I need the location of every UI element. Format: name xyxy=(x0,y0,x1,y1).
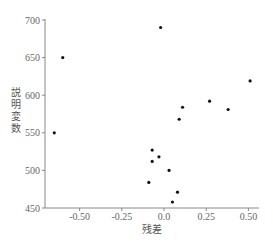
y-tick-label: 650 xyxy=(25,52,40,63)
y-tick-label: 600 xyxy=(25,90,40,101)
data-point xyxy=(61,56,64,59)
data-point xyxy=(151,160,154,163)
scatter-plot: 450500550600650700 -0.50-0.250.00.250.50… xyxy=(0,0,273,245)
x-tick-label: -0.25 xyxy=(111,211,132,222)
data-points xyxy=(53,26,252,204)
x-axis-label: 残差 xyxy=(142,223,162,235)
y-axis-label: 説明変数 xyxy=(11,86,21,134)
y-tick-label: 500 xyxy=(25,165,40,176)
y-ticks: 450500550600650700 xyxy=(25,15,45,214)
data-point xyxy=(171,200,174,203)
y-axis-label-char: 数 xyxy=(11,122,21,134)
x-ticks: -0.50-0.250.00.250.50 xyxy=(69,208,257,222)
data-point xyxy=(208,100,211,103)
data-point xyxy=(248,79,251,82)
y-axis-label-char: 変 xyxy=(11,110,21,122)
y-axis-label-char: 説 xyxy=(11,86,21,98)
data-point xyxy=(151,148,154,151)
y-tick-label: 700 xyxy=(25,15,40,26)
data-point xyxy=(159,26,162,29)
data-point xyxy=(53,131,56,134)
x-tick-label: 0.25 xyxy=(197,211,215,222)
y-axis-label-char: 明 xyxy=(11,99,21,110)
data-point xyxy=(157,155,160,158)
x-tick-label: 0.0 xyxy=(158,211,171,222)
x-tick-label: 0.50 xyxy=(240,211,258,222)
x-tick-label: -0.50 xyxy=(69,211,90,222)
data-point xyxy=(178,118,181,121)
data-point xyxy=(167,169,170,172)
data-point xyxy=(227,108,230,111)
y-tick-label: 550 xyxy=(25,127,40,138)
data-point xyxy=(181,106,184,109)
axes xyxy=(45,19,259,208)
data-point xyxy=(147,181,150,184)
data-point xyxy=(176,191,179,194)
y-tick-label: 450 xyxy=(25,203,40,214)
